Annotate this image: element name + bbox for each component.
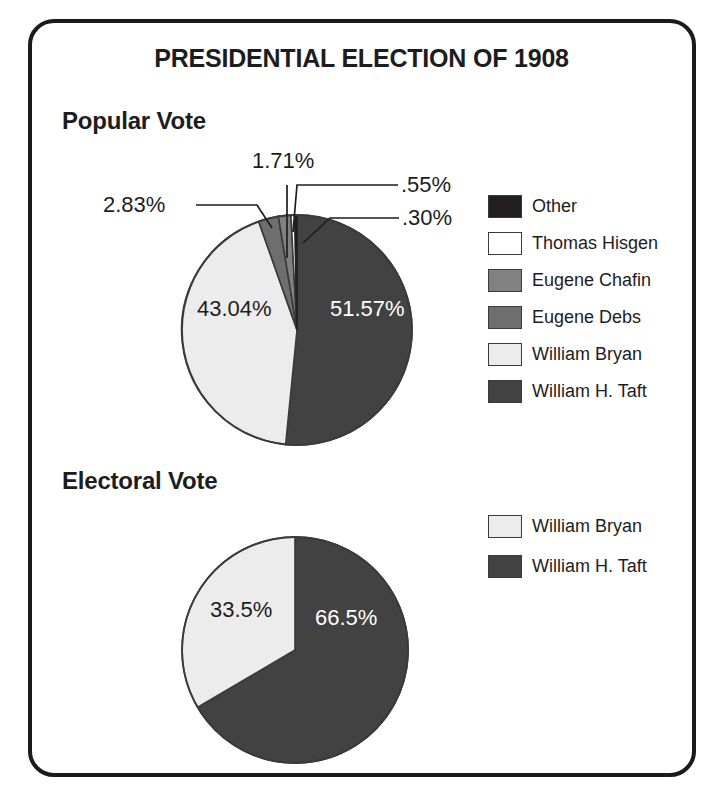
legend-label-electoral-william-bryan: William Bryan <box>532 516 642 537</box>
pie-label-popular-taft: 51.57% <box>330 296 405 322</box>
pie-label-popular-chafin: 1.71% <box>252 148 314 174</box>
pie-label-popular-bryan: 43.04% <box>197 296 272 322</box>
legend-swatch-electoral-william-h-taft <box>488 555 522 578</box>
legend-label-william-bryan: William Bryan <box>532 344 642 365</box>
pie-label-electoral-bryan: 33.5% <box>210 597 272 623</box>
legend-swatch-william-bryan <box>488 343 522 366</box>
legend-label-thomas-hisgen: Thomas Hisgen <box>532 233 658 254</box>
electoral-vote-heading: Electoral Vote <box>62 467 217 495</box>
legend-swatch-thomas-hisgen <box>488 232 522 255</box>
electoral-vote-legend: William Bryan William H. Taft <box>488 506 647 586</box>
legend-swatch-eugene-chafin <box>488 269 522 292</box>
legend-item-thomas-hisgen[interactable]: Thomas Hisgen <box>488 225 658 262</box>
pie-label-popular-other: .30% <box>402 205 452 231</box>
page-title: PRESIDENTIAL ELECTION OF 1908 <box>0 44 723 73</box>
pie-label-popular-debs: 2.83% <box>103 192 165 218</box>
legend-item-william-bryan[interactable]: William Bryan <box>488 336 658 373</box>
legend-item-eugene-chafin[interactable]: Eugene Chafin <box>488 262 658 299</box>
popular-vote-legend: Other Thomas Hisgen Eugene Chafin Eugene… <box>488 188 658 410</box>
popular-vote-heading: Popular Vote <box>62 107 206 135</box>
legend-label-other: Other <box>532 196 577 217</box>
legend-label-electoral-william-h-taft: William H. Taft <box>532 556 647 577</box>
legend-item-william-h-taft[interactable]: William H. Taft <box>488 373 658 410</box>
legend-label-eugene-chafin: Eugene Chafin <box>532 270 651 291</box>
legend-item-eugene-debs[interactable]: Eugene Debs <box>488 299 658 336</box>
legend-swatch-eugene-debs <box>488 306 522 329</box>
legend-item-electoral-william-bryan[interactable]: William Bryan <box>488 506 647 546</box>
pie-label-popular-hisgen: .55% <box>401 172 451 198</box>
pie-label-electoral-taft: 66.5% <box>315 605 377 631</box>
chart-page: PRESIDENTIAL ELECTION OF 1908 Popular Vo… <box>0 0 723 800</box>
legend-swatch-electoral-william-bryan <box>488 515 522 538</box>
legend-label-william-h-taft: William H. Taft <box>532 381 647 402</box>
legend-item-other[interactable]: Other <box>488 188 658 225</box>
legend-item-electoral-william-h-taft[interactable]: William H. Taft <box>488 546 647 586</box>
legend-label-eugene-debs: Eugene Debs <box>532 307 641 328</box>
legend-swatch-william-h-taft <box>488 380 522 403</box>
legend-swatch-other <box>488 195 522 218</box>
